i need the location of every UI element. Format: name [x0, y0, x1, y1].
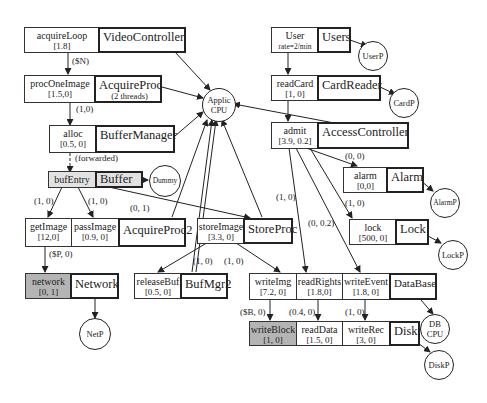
task-bufmgr2[interactable]: BufMgr2 — [180, 273, 228, 299]
diskp-processor[interactable]: DiskP — [424, 350, 454, 380]
task-buffer[interactable]: Buffer — [95, 171, 143, 188]
task-network[interactable]: Network — [70, 273, 119, 299]
cardp-processor[interactable]: CardP — [389, 88, 419, 118]
entry-demand: [3, 0] — [343, 335, 389, 346]
processor-label: Applic CPU — [203, 95, 235, 115]
entry-name: User — [272, 30, 318, 41]
entry-demand: [0, 1] — [26, 287, 71, 298]
entry-proconeimage[interactable]: procOneImage [1.5,0] — [24, 75, 96, 103]
task-alarm[interactable]: Alarm — [386, 167, 424, 193]
entry-alarm[interactable]: alarm [0,0] — [343, 167, 388, 193]
task-name: Buffer — [100, 172, 132, 186]
entry-demand: [1, 0] — [272, 89, 318, 100]
entry-getimage[interactable]: getImage [12,0] — [25, 218, 72, 247]
entry-name: readCard — [272, 78, 318, 89]
entry-bufentry[interactable]: bufEntry — [48, 171, 96, 188]
entry-demand: [1.5, 0] — [297, 335, 342, 346]
call-label: (1,0) — [76, 104, 93, 114]
task-storeproc[interactable]: StoreProc — [243, 218, 293, 244]
entry-lock[interactable]: lock [500, 0] — [349, 219, 397, 245]
entry-storeimage[interactable]: storeImage [3.3, 0] — [197, 218, 245, 244]
processor-label: NetP — [87, 329, 104, 339]
task-videocontroller[interactable]: VideoController — [98, 27, 186, 53]
entry-network[interactable]: network [0, 1] — [25, 273, 72, 299]
entry-acquireloop[interactable]: acquireLoop [1.8] — [24, 27, 100, 53]
entry-demand: [7.2, 0] — [250, 287, 296, 298]
netp-processor[interactable]: NetP — [79, 318, 111, 350]
entry-name: readRights — [297, 276, 342, 287]
entry-writerec[interactable]: writeRec [3, 0] — [342, 321, 390, 346]
task-acquireproc[interactable]: AcquireProc (2 threads) — [94, 75, 162, 103]
entry-name: passImage — [72, 221, 118, 232]
entry-demand: [1.8,0] — [297, 287, 342, 298]
task-lock[interactable]: Lock — [395, 219, 429, 245]
processor-label: AlarmP — [433, 198, 456, 208]
task-accesscontroller[interactable]: AccessController — [317, 122, 409, 149]
call-label: (0, 1) — [130, 203, 150, 213]
task-name: BufMgr2 — [185, 277, 232, 291]
call-label: (1, 0) — [345, 307, 365, 317]
call-label: (1, 0) — [345, 198, 365, 208]
entry-alloc[interactable]: alloc [0.5, 0] — [49, 125, 97, 153]
alarmp-processor[interactable]: AlarmP — [430, 188, 460, 218]
entry-demand: [0.5, 0] — [50, 139, 96, 150]
entry-name: network — [26, 276, 71, 287]
entry-demand: [1, 0] — [250, 335, 296, 346]
task-acquireproc2[interactable]: AcquireProc2 — [118, 218, 186, 247]
entry-readcard[interactable]: readCard [1, 0] — [271, 75, 319, 101]
call-label: (1, 0) — [193, 256, 213, 266]
entry-demand: [1.8, 0] — [343, 287, 389, 298]
task-name: Alarm — [391, 170, 423, 184]
task-disk[interactable]: Disk — [389, 321, 420, 346]
thread-note: (2 threads) — [99, 91, 160, 102]
lockp-processor[interactable]: LockP — [438, 240, 468, 270]
entry-writeevent[interactable]: writeEvent [1.8, 0] — [342, 273, 390, 300]
task-name: AcquireProc2 — [123, 223, 192, 237]
applic-cpu-processor[interactable]: Applic CPU — [202, 88, 236, 122]
entry-user[interactable]: User rate=2/min — [271, 27, 319, 53]
task-name: AccessController — [322, 125, 409, 139]
entry-passimage[interactable]: passImage [0.9, 0] — [71, 218, 119, 247]
processor-label: LockP — [442, 250, 464, 260]
task-name: Network — [75, 277, 119, 291]
processor-label: DiskP — [429, 360, 450, 370]
entry-releasebuf[interactable]: releaseBuf [0.5, 0] — [134, 273, 182, 299]
task-name: AcquireProc — [99, 78, 162, 92]
entry-name: storeImage — [198, 221, 244, 232]
entry-writeblock[interactable]: writeBlock [1, 0] — [249, 321, 297, 346]
call-label: (forwarded) — [75, 153, 118, 163]
task-buffermanager[interactable]: BufferManager — [95, 125, 175, 153]
entry-readdata[interactable]: readData [1.5, 0] — [296, 321, 343, 346]
task-database[interactable]: DataBase — [389, 273, 437, 300]
entry-name: lock — [350, 222, 396, 233]
entry-name: procOneImage — [25, 78, 95, 89]
processor-label: Dummy — [153, 176, 178, 186]
entry-name: writeImg — [250, 276, 296, 287]
entry-readrights[interactable]: readRights [1.8,0] — [296, 273, 343, 300]
entry-name: acquireLoop — [25, 30, 99, 41]
call-label: (0, 0.2) — [308, 218, 334, 228]
entry-name: writeBlock — [250, 324, 296, 335]
task-name: BufferManager — [100, 128, 177, 142]
userp-processor[interactable]: UserP — [358, 41, 388, 71]
task-cardreader[interactable]: CardReader — [317, 75, 381, 101]
entry-demand: [3.9, 0.2] — [272, 136, 318, 147]
dummy-processor[interactable]: Dummy — [149, 165, 181, 197]
entry-demand: rate=2/min — [272, 41, 318, 52]
task-users[interactable]: Users — [317, 27, 351, 53]
call-label: ($N) — [72, 56, 89, 66]
entry-name: getImage — [26, 221, 71, 232]
entry-writeimg[interactable]: writeImg [7.2, 0] — [249, 273, 297, 300]
entry-name: alarm — [344, 170, 387, 181]
entry-name: writeEvent — [343, 276, 389, 287]
entry-demand: [3.3, 0] — [198, 232, 244, 243]
entry-admit[interactable]: admit [3.9, 0.2] — [271, 122, 319, 149]
entry-name: alloc — [50, 128, 96, 139]
task-name: VideoController — [103, 30, 184, 44]
call-label: (1, 0) — [224, 256, 244, 266]
task-name: CardReader — [322, 78, 382, 92]
db-cpu-processor[interactable]: DB CPU — [420, 314, 450, 344]
entry-demand: [0.5, 0] — [135, 287, 181, 298]
task-name: DataBase — [394, 277, 436, 289]
entry-name: releaseBuf — [135, 276, 181, 287]
